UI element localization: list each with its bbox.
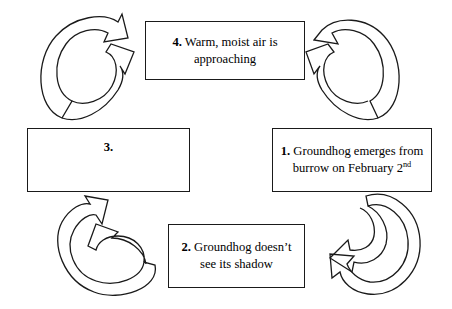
cycle-diagram: 4. Warm, moist air is approaching 1. Gro… <box>0 0 452 309</box>
step-1-ordinal-suffix: nd <box>403 160 411 169</box>
cycle-box-step-1[interactable]: 1. Groundhog emerges from burrow on Febr… <box>272 128 432 192</box>
step-number-4: 4. <box>172 35 181 49</box>
step-2-text-line-3: shadow <box>234 257 272 271</box>
cycle-box-step-4-label: 4. Warm, moist air is approaching <box>151 34 299 67</box>
cycle-box-step-4[interactable]: 4. Warm, moist air is approaching <box>145 21 305 80</box>
cycle-box-step-3[interactable]: 3. <box>27 128 190 192</box>
curved-arrow-1-to-2-icon <box>330 194 420 294</box>
step-1-text-line-1: Groundhog emerges <box>293 144 395 158</box>
cycle-box-step-3-label: 3. <box>33 132 184 156</box>
curved-arrow-1-to-2-inner-icon <box>330 206 387 272</box>
step-4-text-line-2: approaching <box>194 52 256 66</box>
step-4-text-line-1: Warm, moist air is <box>185 35 278 49</box>
step-number-1: 1. <box>281 144 290 158</box>
cycle-box-step-1-label: 1. Groundhog emerges from burrow on Febr… <box>278 143 426 176</box>
curved-arrow-4-to-1-icon <box>314 20 399 118</box>
curved-arrow-2-to-3-icon <box>58 196 156 295</box>
curved-arrow-2-to-3-inner-icon <box>88 224 146 264</box>
cycle-box-step-2-label: 2. Groundhog doesn’t see its shadow <box>174 239 299 272</box>
step-1-text-line-3: February 2 <box>348 161 403 175</box>
step-number-2: 2. <box>182 240 191 254</box>
curved-arrow-3-to-4-inner-icon <box>62 44 134 120</box>
step-2-text-line-1: Groundhog <box>194 240 251 254</box>
curved-arrow-3-to-4-icon <box>41 14 128 118</box>
curved-arrow-4-to-1-inner-icon <box>306 44 378 120</box>
step-number-3: 3. <box>104 140 113 154</box>
cycle-box-step-2[interactable]: 2. Groundhog doesn’t see its shadow <box>168 224 305 288</box>
